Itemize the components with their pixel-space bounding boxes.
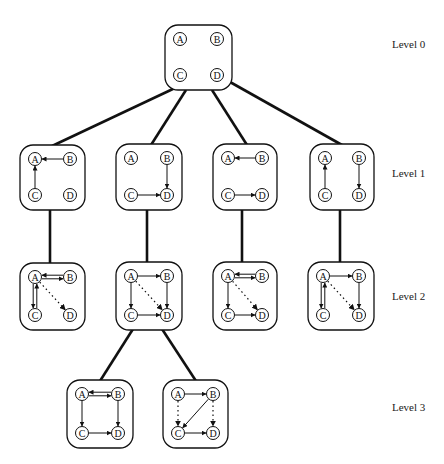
node-a: A: [76, 388, 89, 401]
level-label-1: Level 1: [392, 167, 425, 179]
tree-edge: [212, 90, 247, 145]
state-box-l3b: ABCD: [163, 380, 228, 448]
search-tree-diagram: ABCDABCDABCDABCDABCDABCDABCDABCDABCDABCD…: [0, 0, 444, 464]
svg-text:C: C: [175, 428, 182, 439]
node-d: D: [256, 309, 269, 322]
state-box-l2a: ABCD: [20, 263, 85, 330]
state-box-l1d: ABCD: [310, 144, 374, 210]
svg-text:B: B: [214, 34, 221, 45]
svg-text:B: B: [67, 272, 74, 283]
svg-text:B: B: [259, 271, 266, 282]
svg-text:C: C: [79, 428, 86, 439]
svg-text:D: D: [258, 310, 265, 321]
node-b: B: [353, 270, 366, 283]
node-b: B: [353, 152, 366, 165]
svg-text:D: D: [114, 428, 121, 439]
svg-text:B: B: [115, 389, 122, 400]
svg-text:A: A: [31, 272, 39, 283]
node-a: A: [319, 152, 332, 165]
node-d: D: [207, 427, 220, 440]
node-d: D: [256, 189, 269, 202]
node-b: B: [64, 271, 77, 284]
state-boxes: ABCDABCDABCDABCDABCDABCDABCDABCDABCDABCD…: [20, 25, 374, 448]
node-c: C: [319, 189, 332, 202]
node-b: B: [207, 388, 220, 401]
state-box-l1b: ABCD: [116, 144, 182, 210]
node-d: D: [353, 189, 366, 202]
node-a: A: [29, 271, 42, 284]
level-label-3: Level 3: [392, 401, 425, 413]
state-box-l2c: ABCD: [213, 262, 277, 330]
svg-text:C: C: [320, 310, 327, 321]
node-a: A: [317, 270, 330, 283]
node-a: A: [222, 152, 235, 165]
state-box-l2d: ABCD: [308, 262, 374, 330]
node-c: C: [76, 427, 89, 440]
svg-text:D: D: [163, 310, 170, 321]
svg-text:D: D: [355, 310, 362, 321]
svg-text:C: C: [32, 190, 39, 201]
svg-text:A: A: [176, 34, 184, 45]
svg-text:B: B: [356, 153, 363, 164]
svg-text:A: A: [31, 154, 39, 165]
node-b: B: [112, 388, 125, 401]
node-c: C: [29, 309, 42, 322]
node-d: D: [64, 309, 77, 322]
svg-text:D: D: [213, 70, 220, 81]
svg-text:C: C: [225, 310, 232, 321]
node-a: A: [172, 388, 185, 401]
node-a: A: [125, 270, 138, 283]
node-a: A: [222, 270, 235, 283]
level-label-2: Level 2: [392, 290, 425, 302]
svg-text:D: D: [209, 428, 216, 439]
node-d: D: [211, 69, 224, 82]
node-c: C: [317, 309, 330, 322]
svg-text:A: A: [321, 153, 329, 164]
state-box-l1a: ABCD: [20, 145, 85, 210]
tree-edge: [100, 329, 133, 381]
svg-text:C: C: [128, 190, 135, 201]
svg-text:D: D: [355, 190, 362, 201]
node-c: C: [222, 189, 235, 202]
svg-text:A: A: [174, 389, 182, 400]
node-b: B: [211, 33, 224, 46]
tree-edge: [230, 82, 342, 145]
svg-text:D: D: [258, 190, 265, 201]
node-a: A: [174, 33, 187, 46]
node-d: D: [161, 189, 174, 202]
node-c: C: [222, 309, 235, 322]
node-b: B: [256, 270, 269, 283]
node-c: C: [125, 189, 138, 202]
state-box-l3a: ABCD: [67, 380, 133, 448]
node-c: C: [125, 309, 138, 322]
node-c: C: [174, 69, 187, 82]
svg-text:A: A: [127, 271, 135, 282]
node-b: B: [256, 152, 269, 165]
svg-text:D: D: [163, 190, 170, 201]
node-b: B: [161, 152, 174, 165]
svg-text:A: A: [127, 153, 135, 164]
node-d: D: [64, 189, 77, 202]
tree-edge: [162, 329, 196, 381]
svg-text:C: C: [225, 190, 232, 201]
node-c: C: [172, 427, 185, 440]
node-d: D: [353, 309, 366, 322]
svg-text:A: A: [224, 153, 232, 164]
svg-text:A: A: [78, 389, 86, 400]
svg-text:D: D: [66, 190, 73, 201]
node-a: A: [29, 153, 42, 166]
node-b: B: [161, 270, 174, 283]
node-b: B: [64, 153, 77, 166]
svg-text:C: C: [322, 190, 329, 201]
node-d: D: [161, 309, 174, 322]
state-box-l2b: ABCD: [116, 262, 182, 330]
state-box-l1c: ABCD: [213, 144, 277, 210]
svg-text:B: B: [259, 153, 266, 164]
svg-text:C: C: [128, 310, 135, 321]
node-d: D: [112, 427, 125, 440]
svg-text:B: B: [164, 271, 171, 282]
svg-text:C: C: [32, 310, 39, 321]
tree-edges: [50, 82, 342, 381]
svg-text:B: B: [164, 153, 171, 164]
svg-text:B: B: [67, 154, 74, 165]
